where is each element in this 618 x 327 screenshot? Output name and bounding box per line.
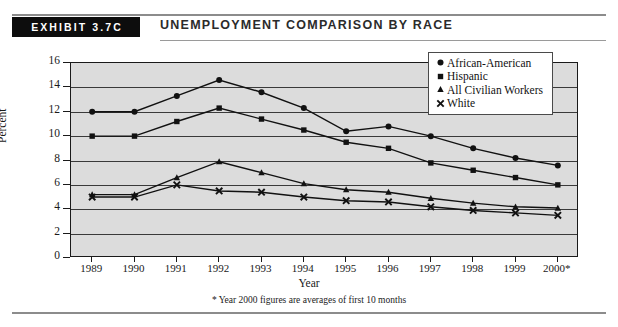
- y-tick-label: 10: [34, 127, 60, 139]
- data-point: [513, 175, 518, 180]
- exhibit-figure: EXHIBIT 3.7C UNEMPLOYMENT COMPARISON BY …: [0, 0, 618, 327]
- data-point: [428, 133, 434, 139]
- data-point: [174, 93, 180, 99]
- y-tick-mark: [63, 160, 70, 161]
- y-tick-mark: [63, 111, 70, 112]
- header-rule-top: [12, 14, 606, 16]
- y-tick-label: 16: [34, 54, 60, 66]
- x-tick-mark: [134, 257, 135, 262]
- exhibit-title: UNEMPLOYMENT COMPARISON BY RACE: [160, 18, 453, 32]
- legend-label: White: [447, 97, 475, 109]
- legend-item: White: [434, 97, 543, 111]
- y-tick-label: 0: [34, 249, 60, 261]
- legend-label: All Civilian Workers: [447, 84, 543, 96]
- square-marker-icon: [434, 71, 447, 82]
- data-point: [259, 116, 264, 121]
- data-point: [386, 123, 392, 129]
- header-rule-title: [160, 40, 606, 41]
- data-point: [470, 168, 475, 173]
- data-point: [216, 158, 222, 164]
- y-tick-label: 4: [34, 200, 60, 212]
- legend-item: African-American: [434, 56, 543, 70]
- series-line: [92, 185, 558, 215]
- y-tick-label: 2: [34, 225, 60, 237]
- y-tick-label: 12: [34, 103, 60, 115]
- legend-label: African-American: [447, 57, 531, 69]
- x-tick-mark: [388, 257, 389, 262]
- data-point: [89, 109, 95, 115]
- data-point: [555, 162, 561, 168]
- data-point: [89, 133, 94, 138]
- data-point: [470, 145, 476, 151]
- x-tick-mark: [430, 257, 431, 262]
- footer-rule: [12, 312, 606, 314]
- y-tick-label: 6: [34, 176, 60, 188]
- data-point: [132, 109, 138, 115]
- data-point: [343, 140, 348, 145]
- x-tick-mark: [91, 257, 92, 262]
- x-tick-mark: [557, 257, 558, 262]
- x-tick-mark: [176, 257, 177, 262]
- y-tick-mark: [63, 257, 70, 258]
- data-point: [428, 160, 433, 165]
- x-tick-mark: [515, 257, 516, 262]
- x-tick-mark: [261, 257, 262, 262]
- chart-legend: African-AmericanHispanicAll Civilian Wor…: [428, 52, 553, 115]
- x-tick-mark: [345, 257, 346, 262]
- legend-item: All Civilian Workers: [434, 83, 543, 97]
- legend-label: Hispanic: [447, 70, 488, 82]
- data-point: [386, 146, 391, 151]
- data-point: [216, 105, 221, 110]
- data-point: [174, 119, 179, 124]
- data-point: [259, 89, 265, 95]
- y-tick-label: 14: [34, 78, 60, 90]
- x-tick-mark: [472, 257, 473, 262]
- triangle-marker-icon: [434, 84, 447, 95]
- y-tick-mark: [63, 62, 70, 63]
- x-tick-label: 2000*: [530, 262, 584, 274]
- data-point: [555, 182, 560, 187]
- legend-item: Hispanic: [434, 70, 543, 84]
- x-tick-mark: [218, 257, 219, 262]
- y-tick-mark: [63, 184, 70, 185]
- chart-footnote: * Year 2000 figures are averages of firs…: [0, 295, 618, 305]
- y-axis-label: Percent: [0, 109, 8, 143]
- series-line: [92, 162, 558, 208]
- y-tick-mark: [63, 233, 70, 234]
- x-tick-mark: [303, 257, 304, 262]
- data-point: [343, 128, 349, 134]
- data-point: [513, 155, 519, 161]
- series-hispanic: [89, 105, 560, 187]
- data-point: [216, 77, 222, 83]
- circle-marker-icon: [434, 57, 447, 68]
- exhibit-tag: EXHIBIT 3.7C: [12, 17, 140, 37]
- cross-marker-icon: [434, 98, 447, 109]
- series-all-civilian-workers: [89, 158, 561, 210]
- data-point: [301, 105, 307, 111]
- y-tick-label: 8: [34, 152, 60, 164]
- y-tick-mark: [63, 208, 70, 209]
- x-axis-label: Year: [0, 277, 618, 289]
- y-tick-mark: [63, 86, 70, 87]
- data-point: [132, 133, 137, 138]
- y-tick-mark: [63, 135, 70, 136]
- data-point: [301, 127, 306, 132]
